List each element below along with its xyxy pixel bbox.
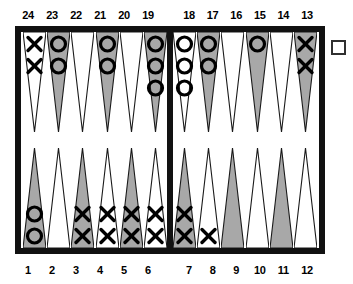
board-point-13[interactable]	[294, 32, 317, 132]
point-number-22: 22	[65, 9, 87, 21]
checker-o-icon[interactable]	[199, 33, 218, 55]
board-point-16[interactable]	[221, 32, 244, 132]
checker-x-icon[interactable]	[98, 203, 117, 225]
board-point-8[interactable]	[197, 148, 220, 248]
point-number-9: 9	[225, 264, 247, 276]
board-point-2[interactable]	[47, 148, 70, 248]
checker-o-icon[interactable]	[49, 33, 68, 55]
checker-x-icon[interactable]	[296, 55, 315, 77]
board-point-4[interactable]	[96, 148, 119, 248]
checker-stack-4[interactable]	[96, 203, 119, 247]
checker-stack-18[interactable]	[173, 33, 196, 99]
checker-x-icon[interactable]	[122, 225, 141, 247]
checker-x-icon[interactable]	[146, 225, 165, 247]
board-point-3[interactable]	[71, 148, 94, 248]
checker-stack-24[interactable]	[23, 33, 46, 77]
point-number-5: 5	[113, 264, 135, 276]
checker-stack-17[interactable]	[197, 33, 220, 77]
bottom-left-numbers: 1 2 3 4 5 6	[17, 262, 159, 278]
board-point-1[interactable]	[23, 148, 46, 248]
checker-stack-13[interactable]	[294, 33, 317, 77]
point-triangle-20	[120, 32, 143, 132]
board-point-19[interactable]	[144, 32, 167, 132]
board-point-20[interactable]	[120, 32, 143, 132]
checker-stack-7[interactable]	[173, 203, 196, 247]
board-point-14[interactable]	[270, 32, 293, 132]
checker-stack-8[interactable]	[197, 225, 220, 247]
point-number-12: 12	[296, 264, 318, 276]
checker-x-icon[interactable]	[98, 225, 117, 247]
point-number-10: 10	[249, 264, 271, 276]
checker-stack-19[interactable]	[144, 33, 167, 99]
checker-o-icon[interactable]	[175, 33, 194, 55]
point-number-15: 15	[249, 9, 271, 21]
board-point-21[interactable]	[96, 32, 119, 132]
quadrant-top-left	[23, 32, 167, 132]
point-triangle-16	[221, 32, 244, 132]
doubling-cube[interactable]	[331, 40, 346, 55]
point-triangle-12	[294, 148, 317, 248]
board-point-22[interactable]	[71, 32, 94, 132]
checker-x-icon[interactable]	[73, 225, 92, 247]
checker-stack-5[interactable]	[120, 203, 143, 247]
point-number-8: 8	[202, 264, 224, 276]
checker-o-icon[interactable]	[175, 77, 194, 99]
checker-o-icon[interactable]	[199, 55, 218, 77]
board-point-24[interactable]	[23, 32, 46, 132]
checker-stack-3[interactable]	[71, 203, 94, 247]
checker-x-icon[interactable]	[296, 33, 315, 55]
point-triangle-11	[270, 148, 293, 248]
checker-stack-21[interactable]	[96, 33, 119, 77]
point-number-6: 6	[137, 264, 159, 276]
point-number-1: 1	[17, 264, 39, 276]
board-point-23[interactable]	[47, 32, 70, 132]
checker-stack-15[interactable]	[246, 33, 269, 55]
board-point-10[interactable]	[246, 148, 269, 248]
quadrant-bottom-left	[23, 148, 167, 248]
board-point-17[interactable]	[197, 32, 220, 132]
board-point-5[interactable]	[120, 148, 143, 248]
top-left-numbers: 24 23 22 21 20 19	[17, 7, 159, 23]
point-number-17: 17	[202, 9, 224, 21]
board-point-7[interactable]	[173, 148, 196, 248]
board-point-11[interactable]	[270, 148, 293, 248]
board-point-9[interactable]	[221, 148, 244, 248]
top-right-numbers: 18 17 16 15 14 13	[178, 7, 318, 23]
checker-o-icon[interactable]	[146, 77, 165, 99]
checker-x-icon[interactable]	[25, 55, 44, 77]
checker-o-icon[interactable]	[98, 55, 117, 77]
checker-o-icon[interactable]	[248, 33, 267, 55]
board-frame	[15, 26, 325, 254]
point-triangle-9	[221, 148, 244, 248]
checker-x-icon[interactable]	[122, 203, 141, 225]
checker-x-icon[interactable]	[175, 225, 194, 247]
checker-x-icon[interactable]	[73, 203, 92, 225]
checker-stack-23[interactable]	[47, 33, 70, 77]
checker-o-icon[interactable]	[175, 55, 194, 77]
point-number-14: 14	[272, 9, 294, 21]
point-number-24: 24	[17, 9, 39, 21]
checker-stack-6[interactable]	[144, 203, 167, 247]
point-number-11: 11	[272, 264, 294, 276]
checker-o-icon[interactable]	[98, 33, 117, 55]
checker-o-icon[interactable]	[25, 203, 44, 225]
checker-x-icon[interactable]	[175, 203, 194, 225]
checker-stack-1[interactable]	[23, 203, 46, 247]
checker-x-icon[interactable]	[199, 225, 218, 247]
point-triangle-22	[71, 32, 94, 132]
checker-o-icon[interactable]	[25, 225, 44, 247]
board-point-18[interactable]	[173, 32, 196, 132]
board-point-12[interactable]	[294, 148, 317, 248]
board-point-6[interactable]	[144, 148, 167, 248]
checker-o-icon[interactable]	[146, 33, 165, 55]
point-number-23: 23	[41, 9, 63, 21]
checker-x-icon[interactable]	[25, 33, 44, 55]
board-point-15[interactable]	[246, 32, 269, 132]
point-triangle-10	[246, 148, 269, 248]
point-number-16: 16	[225, 9, 247, 21]
checker-o-icon[interactable]	[146, 55, 165, 77]
checker-o-icon[interactable]	[49, 55, 68, 77]
quadrant-bottom-right	[173, 148, 317, 248]
point-number-21: 21	[89, 9, 111, 21]
checker-x-icon[interactable]	[146, 203, 165, 225]
